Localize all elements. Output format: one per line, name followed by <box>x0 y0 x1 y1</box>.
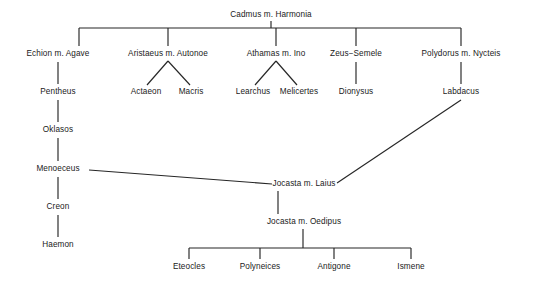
node-layer: Cadmus m. HarmoniaEchion m. AgaveAristae… <box>27 10 501 271</box>
node-label-polydorus: Polydorus m. Nycteis <box>422 49 501 58</box>
edge-athamas-learchus <box>255 61 276 85</box>
node-label-haemon: Haemon <box>42 240 74 249</box>
genealogy-canvas: Cadmus m. HarmoniaEchion m. AgaveAristae… <box>0 0 533 287</box>
node-label-learchus: Learchus <box>236 87 270 96</box>
node-label-ismene: Ismene <box>397 262 425 271</box>
node-label-jocasta-oedipus: Jocasta m. Oedipus <box>267 217 341 226</box>
node-label-eteocles: Eteocles <box>173 262 205 271</box>
node-label-jocasta-laius: Jocasta m. Laius <box>272 179 335 188</box>
node-label-echion: Echion m. Agave <box>27 49 90 58</box>
node-label-cadmus: Cadmus m. Harmonia <box>230 10 312 19</box>
edge-aristaeus-actaeon <box>147 61 168 85</box>
node-label-polyneices: Polyneices <box>240 262 281 271</box>
edge-menoeceus-jocasta <box>89 170 272 184</box>
node-label-labdacus: Labdacus <box>443 87 479 96</box>
node-label-pentheus: Pentheus <box>40 87 75 96</box>
node-label-creon: Creon <box>47 202 70 211</box>
edge-labdacus-laius <box>337 100 461 183</box>
node-label-macris: Macris <box>179 87 204 96</box>
node-label-aristaeus: Aristaeus m. Autonoe <box>128 49 208 58</box>
node-label-oklasos: Oklasos <box>43 125 73 134</box>
node-label-menoeceus: Menoeceus <box>36 164 79 173</box>
genealogy-diagram: Cadmus m. HarmoniaEchion m. AgaveAristae… <box>0 0 533 287</box>
node-label-dionysus: Dionysus <box>339 87 373 96</box>
node-label-athamas: Athamas m. Ino <box>247 49 306 58</box>
node-label-antigone: Antigone <box>317 262 350 271</box>
node-label-melicertes: Melicertes <box>280 87 318 96</box>
node-label-zeus: Zeus−Semele <box>330 49 382 58</box>
node-label-actaeon: Actaeon <box>131 87 162 96</box>
edge-athamas-melicertes <box>276 61 297 85</box>
edge-aristaeus-macris <box>168 61 190 85</box>
